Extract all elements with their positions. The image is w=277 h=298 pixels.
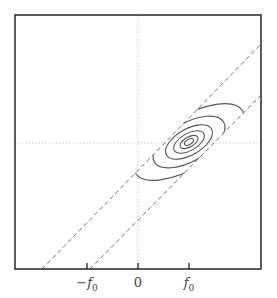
- contour-ellipse-2: [178, 133, 200, 152]
- contour-diagram: [0, 0, 277, 298]
- upper-band-edge-line: [42, 44, 261, 269]
- tick-label-zero: 0: [134, 275, 142, 290]
- lower-band-edge-line: [90, 95, 261, 269]
- likelihood-contours: [122, 88, 255, 195]
- x-axis-ticks: [87, 263, 189, 269]
- contour-ellipse-5: [145, 106, 233, 179]
- contour-ellipse-4: [160, 118, 218, 167]
- contour-ellipse-3: [170, 126, 208, 158]
- tick-label-neg-f0: −f0: [76, 275, 97, 293]
- contour-ellipse-6: [122, 88, 255, 195]
- tick-label-f0: f0: [184, 275, 195, 293]
- band-dashed-lines: [42, 44, 261, 269]
